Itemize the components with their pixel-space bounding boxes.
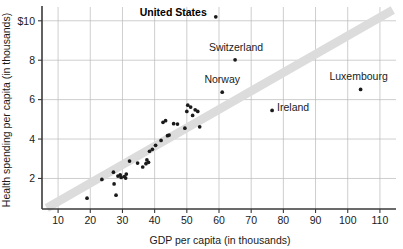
x-tick-label: 30 bbox=[117, 214, 129, 226]
data-point-labeled bbox=[233, 58, 237, 62]
y-tick-label: 6 bbox=[29, 93, 35, 105]
data-point bbox=[191, 114, 195, 118]
data-point bbox=[112, 182, 116, 186]
y-tick-label: 8 bbox=[29, 54, 35, 66]
data-point bbox=[151, 147, 155, 151]
data-point bbox=[198, 125, 202, 129]
data-point bbox=[154, 143, 158, 147]
data-point bbox=[112, 170, 116, 174]
data-point bbox=[164, 119, 168, 123]
y-tick-labels: 2468$10 bbox=[17, 15, 35, 185]
data-point bbox=[183, 126, 187, 130]
x-tick-label: 70 bbox=[245, 214, 257, 226]
x-tick-label: 50 bbox=[181, 214, 193, 226]
x-tick-labels: 102030405060708090100110 bbox=[52, 214, 388, 226]
scatter-chart: 102030405060708090100110 2468$10 United … bbox=[0, 0, 403, 249]
data-point-label: Luxembourg bbox=[329, 70, 388, 82]
data-point-labeled bbox=[220, 90, 224, 94]
data-point bbox=[167, 133, 171, 137]
x-tick-label: 60 bbox=[213, 214, 225, 226]
data-point bbox=[128, 159, 132, 163]
data-point bbox=[124, 172, 128, 176]
data-point-labeled bbox=[270, 109, 274, 113]
x-tick-label: 10 bbox=[52, 214, 64, 226]
data-point bbox=[189, 105, 193, 109]
data-point bbox=[124, 176, 128, 180]
data-point bbox=[119, 176, 123, 180]
data-point bbox=[114, 193, 118, 197]
x-tick-label: 100 bbox=[339, 214, 357, 226]
x-axis-title: GDP per capita (in thousands) bbox=[149, 234, 290, 246]
y-axis-title: Health spending per capita (in thousands… bbox=[0, 13, 12, 207]
x-tick-label: 40 bbox=[149, 214, 161, 226]
x-tick-label: 80 bbox=[278, 214, 290, 226]
data-point-labeled bbox=[214, 15, 218, 19]
y-tick-label: 4 bbox=[29, 133, 35, 145]
data-point bbox=[141, 165, 145, 169]
chart-canvas: 102030405060708090100110 2468$10 United … bbox=[0, 0, 403, 249]
y-tick-label: 2 bbox=[29, 172, 35, 184]
data-point bbox=[172, 122, 176, 126]
x-tick-label: 110 bbox=[372, 214, 389, 226]
data-point bbox=[185, 110, 189, 114]
data-point bbox=[176, 122, 180, 126]
data-point bbox=[136, 161, 140, 165]
data-point bbox=[159, 139, 163, 143]
data-point bbox=[85, 196, 89, 200]
y-tick-label: $10 bbox=[17, 15, 35, 27]
point-annotations: United StatesSwitzerlandNorwayLuxembourg… bbox=[140, 6, 388, 114]
data-point-label: United States bbox=[140, 6, 207, 18]
data-point bbox=[147, 160, 151, 164]
data-point-labeled bbox=[359, 88, 363, 92]
data-point-label: Switzerland bbox=[209, 41, 263, 53]
data-point bbox=[196, 110, 200, 114]
x-tick-label: 90 bbox=[310, 214, 322, 226]
data-point bbox=[100, 178, 104, 182]
data-point-label: Ireland bbox=[277, 101, 309, 113]
data-point-label: Norway bbox=[204, 73, 240, 85]
x-tick-label: 20 bbox=[84, 214, 96, 226]
